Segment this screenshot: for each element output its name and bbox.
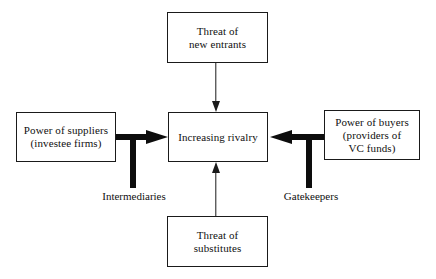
node-power-of-suppliers: Power of suppliers (investee firms): [16, 112, 116, 162]
node-label-line: Increasing rivalry: [178, 131, 258, 144]
arrow-head: [212, 101, 220, 112]
arrow-up-icon: [211, 162, 221, 216]
node-label-line: VC funds): [348, 142, 395, 155]
node-label-line: new entrants: [189, 38, 246, 51]
forces-diagram-canvas: Threat of new entrants Power of supplier…: [0, 0, 436, 279]
node-label-line: Threat of: [197, 229, 239, 242]
arrow-head: [212, 162, 220, 173]
node-label-line: (providers of: [343, 129, 401, 142]
arrow-down-icon: [211, 63, 221, 112]
arrow-shaft: [215, 172, 216, 216]
thick-arrow-right-icon: [116, 134, 168, 188]
node-power-of-buyers: Power of buyers (providers of VC funds): [324, 110, 420, 160]
node-threat-of-substitutes: Threat of substitutes: [167, 216, 268, 267]
node-threat-of-new-entrants: Threat of new entrants: [167, 12, 268, 63]
arrow-stem: [306, 134, 312, 188]
arrow-stem: [130, 134, 136, 188]
node-increasing-rivalry: Increasing rivalry: [168, 112, 268, 162]
node-label-line: substitutes: [194, 242, 242, 255]
node-label-line: Power of suppliers: [24, 124, 108, 137]
edge-label-intermediaries: Intermediaries: [88, 190, 180, 203]
node-label-line: Threat of: [197, 25, 239, 38]
arrow-shaft: [215, 63, 216, 104]
node-label-line: (investee firms): [31, 137, 102, 150]
edge-label-gatekeepers: Gatekeepers: [272, 190, 350, 203]
arrow-head: [270, 130, 292, 144]
arrow-head: [146, 130, 168, 144]
thick-arrow-left-icon: [270, 134, 324, 188]
node-label-line: Power of buyers: [335, 116, 409, 129]
